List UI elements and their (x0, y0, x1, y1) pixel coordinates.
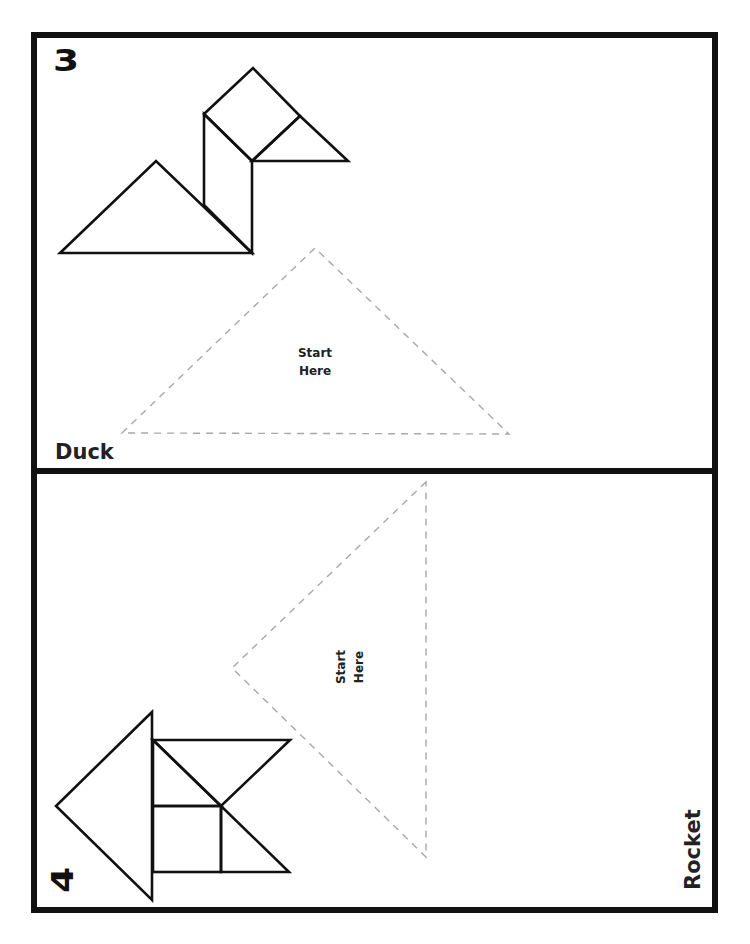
rocket-start-here-label: Start Here (332, 637, 368, 697)
rocket-title: Rocket (683, 809, 704, 890)
rocket-parallelogram (153, 740, 290, 806)
duck-small-triangle (252, 116, 348, 161)
puzzle-number-4: 4 (48, 867, 78, 893)
duck-square (204, 68, 300, 161)
duck-start-outline (122, 248, 509, 434)
puzzle-number-3: 3 (53, 46, 79, 76)
rocket-square (153, 806, 221, 872)
here-line: Here (350, 637, 368, 697)
duck-large-triangle (60, 161, 252, 253)
rocket-small-triangle (221, 806, 289, 872)
tangram-artwork (0, 0, 750, 944)
start-line: Start (285, 344, 345, 362)
start-line: Start (332, 637, 350, 697)
duck-start-here-label: Start Here (285, 344, 345, 380)
rocket-start-outline (232, 482, 426, 857)
duck-parallelogram (204, 114, 252, 253)
duck-title: Duck (55, 442, 114, 463)
rocket-upper-triangle (153, 740, 221, 806)
duck-figure (60, 68, 348, 253)
rocket-figure (56, 712, 290, 900)
here-line: Here (285, 362, 345, 380)
